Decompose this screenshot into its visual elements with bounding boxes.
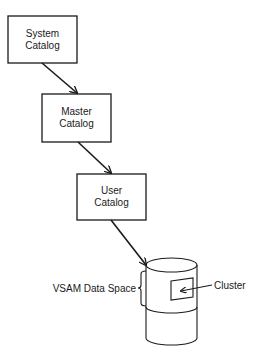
user-catalog-label-line2: Catalog <box>94 197 128 208</box>
cylinder-body <box>146 265 197 345</box>
master-catalog-node: Master Catalog <box>42 94 111 142</box>
system-catalog-label-line1: System <box>26 28 59 39</box>
volume-cylinder <box>146 258 197 345</box>
catalog-hierarchy-diagram: System Catalog Master Catalog User Catal… <box>0 0 266 354</box>
vsam-data-space-label: VSAM Data Space <box>53 283 137 294</box>
data-space-brace <box>138 271 146 306</box>
cluster-label: Cluster <box>214 280 246 291</box>
arrow-user-to-volume <box>111 220 146 265</box>
master-catalog-label-line2: Catalog <box>59 118 93 129</box>
user-catalog-label-line1: User <box>101 185 123 196</box>
master-catalog-label-line1: Master <box>61 106 92 117</box>
arrow-master-to-user <box>78 142 111 173</box>
system-catalog-label-line2: Catalog <box>25 40 59 51</box>
cylinder-top <box>146 258 197 272</box>
cylinder-band <box>146 307 197 313</box>
user-catalog-node: User Catalog <box>77 174 146 220</box>
arrow-system-to-master <box>42 63 77 93</box>
system-catalog-node: System Catalog <box>8 16 77 63</box>
